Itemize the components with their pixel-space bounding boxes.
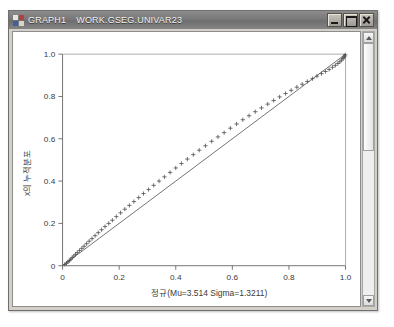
data-point <box>277 95 281 99</box>
data-point <box>271 98 275 102</box>
data-point <box>330 65 334 69</box>
data-point <box>289 88 293 92</box>
data-point <box>146 187 150 191</box>
x-axis-title: 정규(Mu=3.514 Sigma=1.3211) <box>151 288 267 298</box>
y-tick-label: 0 <box>51 262 56 271</box>
data-point <box>191 153 195 157</box>
data-point <box>84 242 88 246</box>
minimize-button[interactable] <box>327 13 342 27</box>
close-button[interactable] <box>359 13 374 27</box>
maximize-button[interactable] <box>343 13 358 27</box>
screen-root: GRAPH1WORK.GSEG.UNIVAR23 00.20.40.60.81.… <box>0 0 394 327</box>
chevron-down-icon <box>366 299 372 303</box>
data-point <box>132 199 136 203</box>
chevron-up-icon <box>366 36 372 40</box>
y-tick-label: 0.6 <box>44 135 56 144</box>
x-tick-label: 0.6 <box>227 273 239 282</box>
data-point <box>179 161 183 165</box>
data-point <box>87 239 91 243</box>
window-title-dataset: WORK.GSEG.UNIVAR23 <box>76 15 182 25</box>
vertical-scrollbar[interactable] <box>362 31 375 307</box>
y-axis-title: x의 누적분포 <box>21 150 31 196</box>
data-point <box>247 114 251 118</box>
data-point <box>319 72 323 76</box>
data-point <box>96 231 100 235</box>
data-point <box>123 207 127 211</box>
data-point <box>197 148 201 152</box>
data-point <box>118 211 122 215</box>
data-point <box>82 244 86 248</box>
scroll-down-button[interactable] <box>363 295 374 306</box>
data-point <box>241 118 245 122</box>
x-tick-label: 0.4 <box>170 273 182 282</box>
data-point <box>107 221 111 225</box>
data-point <box>266 102 270 106</box>
data-point <box>295 85 299 89</box>
window-title: GRAPH1WORK.GSEG.UNIVAR23 <box>28 15 182 25</box>
data-point <box>152 183 156 187</box>
x-tick-label: 1.0 <box>340 273 352 282</box>
pp-plot: 00.20.40.60.81.0 00.20.40.60.81.0 정규(Mu=… <box>13 32 360 306</box>
data-point <box>283 91 287 95</box>
sas-graph-icon <box>13 15 24 26</box>
data-point <box>174 166 178 170</box>
y-tick-label: 0.4 <box>44 177 56 186</box>
x-tick-label: 0.8 <box>283 273 295 282</box>
window-controls <box>327 13 375 27</box>
data-point <box>99 228 103 232</box>
data-point <box>234 122 238 126</box>
data-point <box>253 110 257 114</box>
data-point <box>103 224 107 228</box>
y-tick-label: 1.0 <box>44 50 56 59</box>
data-point <box>168 170 172 174</box>
data-point <box>114 215 118 219</box>
window-client-area: 00.20.40.60.81.0 00.20.40.60.81.0 정규(Mu=… <box>9 29 377 310</box>
data-point <box>93 234 97 238</box>
data-point <box>305 79 309 83</box>
data-point <box>222 131 226 135</box>
data-point <box>185 157 189 161</box>
data-point <box>203 144 207 148</box>
data-point <box>157 179 161 183</box>
window-title-app: GRAPH1 <box>28 15 66 25</box>
data-point <box>228 126 232 130</box>
data-point <box>127 203 131 207</box>
data-point <box>210 139 214 143</box>
data-point <box>90 237 94 241</box>
scroll-up-button[interactable] <box>363 32 374 43</box>
y-tick-labels: 00.20.40.60.81.0 <box>44 50 56 270</box>
data-point <box>137 195 141 199</box>
data-point <box>333 63 337 67</box>
data-point <box>110 218 114 222</box>
data-point <box>141 191 145 195</box>
x-tick-labels: 00.20.40.60.81.0 <box>60 273 351 282</box>
diagonal-reference-line <box>63 54 346 266</box>
data-point <box>259 106 263 110</box>
scrollbar-thumb[interactable] <box>363 43 374 151</box>
graph-window: GRAPH1WORK.GSEG.UNIVAR23 00.20.40.60.81.… <box>8 10 378 311</box>
data-point <box>162 175 166 179</box>
x-tick-label: 0 <box>60 273 65 282</box>
y-tick-label: 0.2 <box>44 219 56 228</box>
data-point <box>216 135 220 139</box>
title-bar[interactable]: GRAPH1WORK.GSEG.UNIVAR23 <box>9 11 377 29</box>
graph-canvas[interactable]: 00.20.40.60.81.0 00.20.40.60.81.0 정규(Mu=… <box>12 31 361 307</box>
x-tick-label: 0.2 <box>113 273 125 282</box>
y-tick-label: 0.8 <box>44 92 56 101</box>
